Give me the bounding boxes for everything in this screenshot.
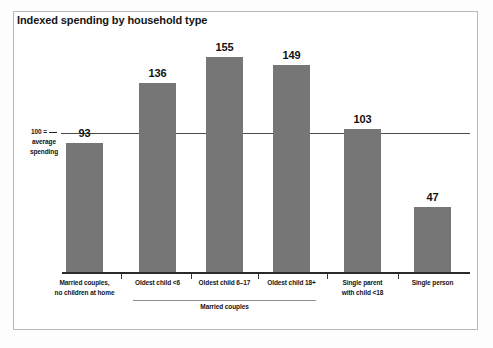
bar-value-label-3: 149 (260, 49, 323, 61)
reference-annotation-line-2: average (18, 137, 70, 147)
reference-annotation: 100 = average spending (18, 127, 70, 157)
bar-1 (139, 83, 176, 272)
bar-5 (414, 207, 451, 272)
category-label-line: Single person (390, 278, 476, 288)
reference-dash-icon (49, 132, 57, 133)
bar-value-label-4: 103 (331, 113, 394, 125)
group-bracket-line (133, 300, 316, 301)
screenshot-page: Indexed spending by household type 93136… (0, 0, 493, 348)
category-label-line: no children at home (42, 288, 128, 298)
plot-area: 9313615514910347 Married couples,no chil… (0, 0, 465, 319)
reference-annotation-line-1: 100 = (18, 127, 70, 137)
category-label-5: Single person (390, 278, 476, 288)
reference-line-100 (61, 133, 470, 134)
group-bracket-label: Married couples (133, 303, 316, 310)
bar-0 (66, 143, 103, 272)
category-label-line: with child <18 (320, 288, 406, 298)
bar-value-label-1: 136 (126, 67, 189, 79)
bar-3 (273, 65, 310, 272)
x-axis-line (62, 272, 470, 274)
bar-value-label-5: 47 (401, 191, 464, 203)
bar-4 (344, 129, 381, 272)
reference-annotation-line-3: spending (18, 147, 70, 157)
bar-value-label-2: 155 (193, 41, 256, 53)
bar-2 (206, 57, 243, 272)
